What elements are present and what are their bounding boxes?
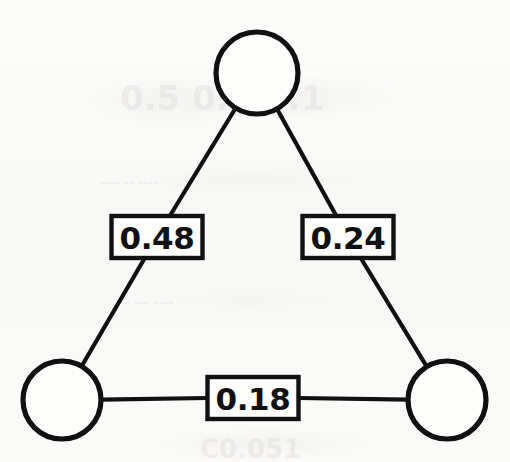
edge-line-top-to-left-lower bbox=[82, 258, 145, 366]
edge-weight-label-bottom[interactable]: 0.18 bbox=[208, 377, 299, 419]
edge-weight-text-right: 0.24 bbox=[311, 220, 386, 256]
edge-labels-layer: 0.48 0.24 0.18 bbox=[112, 216, 394, 419]
edge-weight-label-right[interactable]: 0.24 bbox=[303, 216, 394, 258]
node-circle-top[interactable] bbox=[216, 32, 298, 114]
edge-line-top-to-right-lower bbox=[361, 258, 427, 367]
node-circle-bottom-right[interactable] bbox=[408, 361, 486, 439]
graph-canvas: 0.48 0.24 0.18 bbox=[0, 0, 510, 462]
edge-line-top-to-left-upper bbox=[170, 108, 236, 216]
node-circle-bottom-left[interactable] bbox=[23, 361, 101, 439]
edge-weight-text-left: 0.48 bbox=[120, 220, 195, 256]
edge-line-top-to-right-upper bbox=[277, 109, 336, 216]
edge-line-bottom-right-segment bbox=[299, 398, 409, 400]
edge-line-bottom-left-segment bbox=[101, 398, 208, 400]
edge-weight-label-left[interactable]: 0.48 bbox=[112, 216, 203, 258]
edge-weight-text-bottom: 0.18 bbox=[216, 381, 291, 417]
figure-root: 0.5 0.7 9.1 ---- -- ---- -- --- ---- C0.… bbox=[0, 0, 510, 462]
